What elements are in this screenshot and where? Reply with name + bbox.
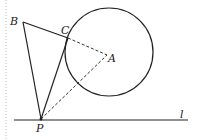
label-p: P [35, 122, 44, 135]
segment-ca-dashed [68, 38, 107, 55]
segment-bp [23, 22, 41, 119]
segment-cp [41, 38, 68, 119]
geometry-diagram: B C A P l [0, 0, 198, 140]
label-c: C [61, 24, 70, 37]
label-a: A [107, 52, 116, 65]
label-l: l [180, 108, 184, 121]
point-p-dot [40, 118, 43, 121]
segment-pa-dashed [41, 55, 107, 119]
label-b: B [9, 15, 18, 28]
